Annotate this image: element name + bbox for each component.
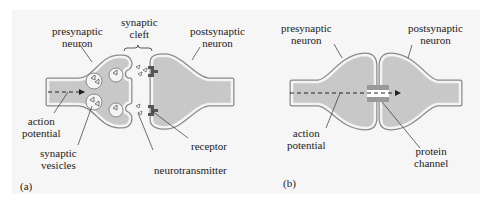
cleft-brace <box>124 45 152 51</box>
label-action-potential-a: actionpotential <box>22 115 61 139</box>
postsynaptic-neuron-b <box>381 55 460 128</box>
label-synaptic-cleft: synapticcleft <box>121 16 158 40</box>
panel-b-tag: (b) <box>283 177 296 189</box>
label-receptor: receptor <box>191 140 227 152</box>
label-synaptic-vesicles: synapticvesicles <box>40 147 77 171</box>
label-presynaptic-neuron-b: presynapticneuron <box>281 22 332 46</box>
panel-a-tag: (a) <box>20 180 32 192</box>
label-postsynaptic-neuron-b: postsynapticneuron <box>408 22 463 46</box>
label-protein-channel: proteinchannel <box>414 145 448 169</box>
presynaptic-neuron-b <box>292 55 375 128</box>
label-presynaptic-neuron-a: presynapticneuron <box>52 25 103 49</box>
label-action-potential-b: actionpotential <box>287 127 326 151</box>
neurotransmitters <box>136 65 147 115</box>
label-postsynaptic-neuron-a: postsynapticneuron <box>190 25 245 49</box>
postsynaptic-neuron-a <box>152 56 232 128</box>
chemical-synapse <box>48 45 232 150</box>
label-neurotransmitter: neurotransmitter <box>154 164 227 176</box>
